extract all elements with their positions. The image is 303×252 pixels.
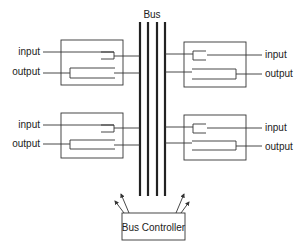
- bus-lines: [140, 22, 165, 196]
- module-bottom-right: input output: [165, 115, 293, 160]
- module-top-left: input output: [12, 40, 140, 85]
- module-bottom-left: input output: [12, 113, 140, 158]
- output-label: output: [12, 138, 40, 149]
- output-label: output: [265, 68, 293, 79]
- output-label: output: [12, 66, 40, 77]
- module-box: [184, 115, 246, 160]
- output-label: output: [265, 141, 293, 152]
- input-label: input: [18, 119, 40, 130]
- input-label: input: [265, 122, 287, 133]
- control-arrows: [115, 194, 189, 213]
- bus-controller: Bus Controller: [122, 213, 186, 240]
- bus-controller-label: Bus Controller: [122, 222, 186, 233]
- module-top-right: input output: [165, 42, 293, 87]
- module-box: [61, 113, 123, 158]
- input-label: input: [18, 46, 40, 57]
- arrow-icon: [115, 201, 124, 213]
- input-label: input: [265, 49, 287, 60]
- bus-diagram: Bus input output input output input: [0, 0, 303, 252]
- bus-label: Bus: [143, 9, 160, 20]
- arrow-icon: [181, 202, 189, 213]
- module-box: [184, 42, 246, 87]
